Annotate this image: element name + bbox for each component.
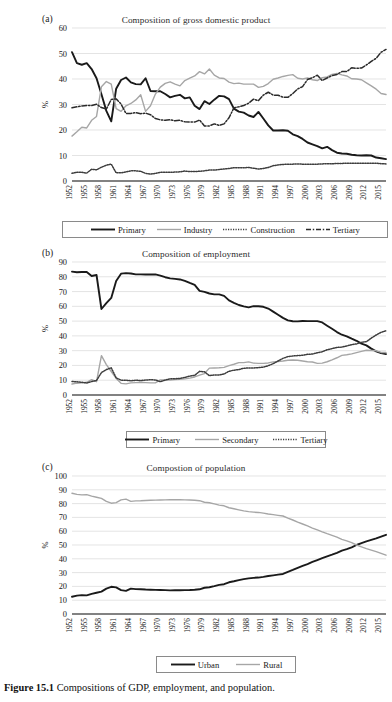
panel-b-legend: PrimarySecondaryTertiary [126, 431, 326, 448]
x-axis-tick-label: 1970 [153, 185, 162, 200]
legend-item-tertiary[interactable]: Tertiary [305, 225, 360, 235]
legend-item-construction[interactable]: Construction [222, 225, 294, 235]
panel-c-legend: UrbanRural [156, 656, 296, 673]
legend-label-secondary: Secondary [222, 435, 258, 445]
x-axis-tick-label: 1970 [153, 618, 162, 633]
legend-swatch-urban [170, 660, 196, 669]
figure-caption: Figure 15.1 Compositions of GDP, employm… [4, 682, 388, 693]
y-axis-tick-label: 50 [59, 541, 67, 550]
x-axis-tick-label: 1991 [256, 618, 265, 633]
y-axis-tick-label: 70 [59, 288, 67, 297]
y-axis-tick-label: 40 [59, 555, 67, 564]
series-line-tertiary [72, 49, 386, 126]
y-axis-tick-label: 50 [59, 317, 67, 326]
legend-label-industry: Industry [184, 225, 213, 235]
x-axis-tick-label: 2003 [315, 399, 324, 414]
panel-b-plot: 0102030405060708090%19521955195819611964… [0, 256, 392, 450]
x-axis-tick-label: 1952 [65, 185, 74, 200]
x-axis-tick-label: 1985 [227, 185, 236, 200]
x-axis-tick-label: 2003 [315, 185, 324, 200]
legend-label-urban: Urban [198, 660, 219, 670]
y-axis-tick-label: 90 [59, 486, 67, 495]
y-axis-tick-label: 10 [59, 152, 67, 161]
x-axis-tick-label: 2015 [374, 399, 383, 414]
x-axis-tick-label: 2000 [301, 618, 310, 633]
x-axis-tick-label: 2012 [359, 399, 368, 414]
legend-swatch-secondary [194, 435, 220, 444]
x-axis-tick-label: 1976 [183, 618, 192, 633]
x-axis-tick-label: 1964 [124, 618, 133, 633]
x-axis-tick-label: 1982 [212, 399, 221, 414]
x-axis-tick-label: 1991 [256, 185, 265, 200]
y-axis-tick-label: 0 [63, 177, 67, 186]
x-axis-tick-label: 2015 [374, 618, 383, 633]
x-axis-tick-label: 1955 [80, 618, 89, 633]
legend-label-primary: Primary [118, 225, 146, 235]
legend-item-primary[interactable]: Primary [90, 225, 146, 235]
y-axis-tick-label: 40 [59, 332, 67, 341]
y-axis-tick-label: 80 [59, 500, 67, 509]
y-axis-tick-label: 80 [59, 273, 67, 282]
x-axis-tick-label: 1964 [124, 399, 133, 414]
x-axis-tick-label: 1994 [271, 185, 280, 200]
y-axis-tick-label: 10 [59, 376, 67, 385]
panel-a-legend: PrimaryIndustryConstructionTertiary [62, 221, 388, 238]
legend-swatch-rural [235, 660, 261, 669]
x-axis-tick-label: 2009 [345, 185, 354, 200]
x-axis-tick-label: 1991 [256, 399, 265, 414]
series-line-construction [72, 163, 386, 174]
panel-c-plot: 0102030405060708090100%19521955195819611… [0, 470, 392, 654]
y-axis-tick-label: 60 [59, 527, 67, 536]
y-axis-tick-label: 90 [59, 258, 67, 267]
figure-caption-text: Compositions of GDP, employment, and pop… [57, 682, 275, 693]
x-axis-tick-label: 1982 [212, 618, 221, 633]
legend-label-primary: Primary [152, 435, 180, 445]
x-axis-tick-label: 2015 [374, 185, 383, 200]
x-axis-tick-label: 2009 [345, 618, 354, 633]
x-axis-tick-label: 1994 [271, 399, 280, 414]
x-axis-tick-label: 1958 [94, 618, 103, 633]
x-axis-tick-label: 2012 [359, 185, 368, 200]
x-axis-tick-label: 1973 [168, 618, 177, 633]
legend-label-tertiary: Tertiary [300, 435, 327, 445]
x-axis-tick-label: 2000 [301, 399, 310, 414]
legend-item-tertiary[interactable]: Tertiary [272, 435, 327, 445]
x-axis-tick-label: 2006 [330, 185, 339, 200]
y-axis-tick-label: 0 [63, 610, 67, 619]
legend-item-rural[interactable]: Rural [235, 660, 282, 670]
y-axis-tick-label: 60 [59, 24, 67, 33]
figure-caption-label: Figure 15.1 [4, 682, 54, 693]
x-axis-tick-label: 1952 [65, 618, 74, 633]
x-axis-tick-label: 2009 [345, 399, 354, 414]
x-axis-tick-label: 1961 [109, 185, 118, 200]
x-axis-tick-label: 1988 [242, 185, 251, 200]
y-axis-tick-label: 40 [59, 75, 67, 84]
x-axis-tick-label: 1955 [80, 399, 89, 414]
legend-item-urban[interactable]: Urban [170, 660, 219, 670]
legend-swatch-tertiary [305, 225, 331, 234]
x-axis-tick-label: 1973 [168, 185, 177, 200]
series-line-urban [72, 535, 386, 597]
x-axis-tick-label: 1961 [109, 618, 118, 633]
y-axis-tick-label: 60 [59, 302, 67, 311]
x-axis-tick-label: 1967 [139, 618, 148, 633]
x-axis-tick-label: 1958 [94, 399, 103, 414]
x-axis-tick-label: 1988 [242, 618, 251, 633]
y-axis-tick-label: 20 [59, 361, 67, 370]
x-axis-tick-label: 2006 [330, 399, 339, 414]
y-axis-title: % [41, 541, 50, 548]
x-axis-tick-label: 1979 [197, 185, 206, 200]
legend-label-construction: Construction [250, 225, 294, 235]
x-axis-tick-label: 1985 [227, 618, 236, 633]
y-axis-tick-label: 70 [59, 513, 67, 522]
figure-15-1: (a) Composition of gross domestic produc… [0, 0, 392, 702]
x-axis-tick-label: 1967 [139, 185, 148, 200]
y-axis-tick-label: 20 [59, 582, 67, 591]
x-axis-tick-label: 1985 [227, 399, 236, 414]
legend-item-industry[interactable]: Industry [156, 225, 213, 235]
legend-item-secondary[interactable]: Secondary [194, 435, 258, 445]
legend-item-primary[interactable]: Primary [124, 435, 180, 445]
x-axis-tick-label: 1976 [183, 399, 192, 414]
x-axis-tick-label: 1976 [183, 185, 192, 200]
x-axis-tick-label: 1997 [286, 399, 295, 414]
